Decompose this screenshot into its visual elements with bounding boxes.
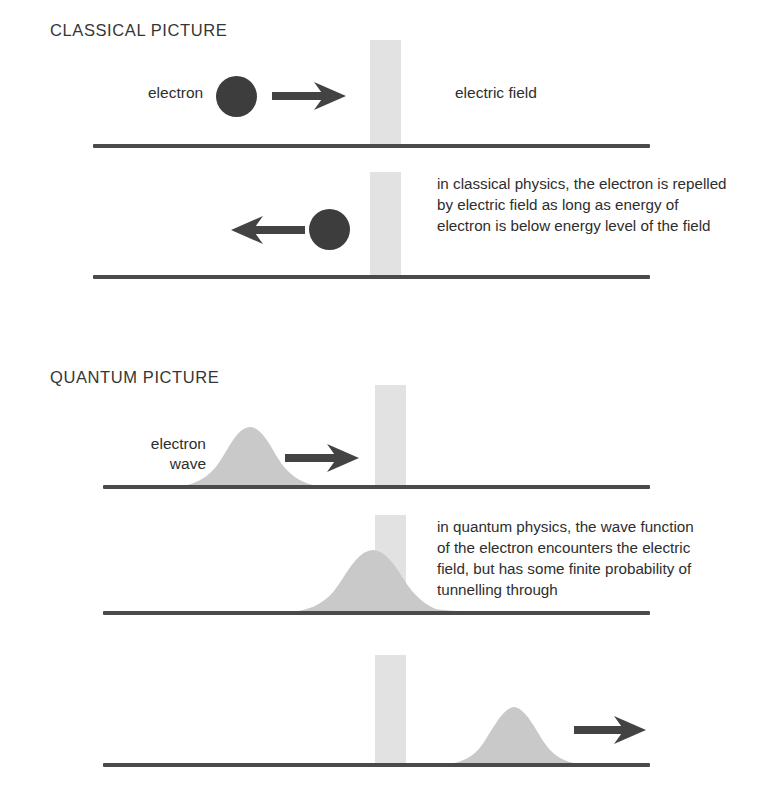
arrow-left-icon-panel2	[225, 212, 307, 248]
ground-baseline-panel1	[93, 144, 650, 148]
electric-field-label: electric field	[455, 84, 537, 102]
ground-baseline-panel4	[103, 611, 650, 615]
wave-packet-transmitted	[440, 705, 588, 765]
electron-particle-panel1	[216, 76, 257, 117]
electric-field-barrier-panel2	[370, 172, 401, 277]
ground-baseline-panel3	[103, 485, 650, 489]
classical-caption: in classical physics, the electron is re…	[437, 174, 747, 237]
electric-field-barrier-panel1	[370, 40, 401, 146]
electric-field-barrier-panel5	[375, 655, 406, 765]
ground-baseline-panel5	[103, 763, 650, 767]
quantum-picture-title: QUANTUM PICTURE	[50, 368, 219, 387]
electron-label: electron	[148, 84, 203, 102]
ground-baseline-panel2	[93, 275, 650, 279]
electric-field-barrier-panel3	[375, 385, 406, 487]
quantum-caption: in quantum physics, the wave function of…	[437, 517, 747, 601]
diagram-canvas: CLASSICAL PICTURE electron electric fiel…	[0, 0, 759, 788]
electron-particle-panel2	[309, 209, 350, 250]
classical-picture-title: CLASSICAL PICTURE	[50, 21, 227, 40]
arrow-right-icon-panel1	[270, 78, 350, 114]
arrow-right-icon-panel3	[283, 440, 363, 476]
arrow-right-icon-panel5	[572, 712, 650, 748]
